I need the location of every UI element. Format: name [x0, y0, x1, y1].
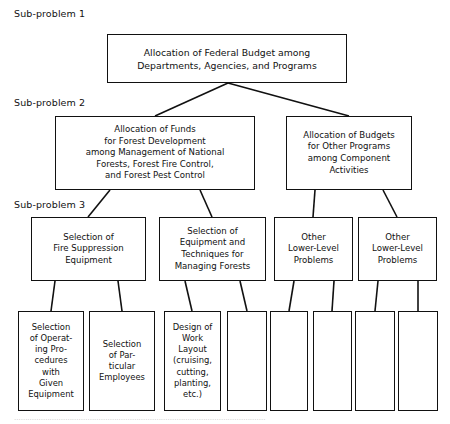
node-particular-employees[interactable]: Selection of Par- ticular Employees [89, 311, 155, 411]
node-label-other-lower-level-problems-2: Other Lower-Level Problems [359, 232, 436, 267]
node-other-programs-budgets[interactable]: Allocation of Budgets for Other Programs… [286, 116, 412, 190]
node-label-work-layout-design: Design of Work Layout (cruising, cutting… [165, 322, 220, 400]
c-equip-to-blank1 [240, 281, 247, 311]
node-work-layout-design[interactable]: Design of Work Layout (cruising, cutting… [164, 311, 221, 411]
c-lower1-to-blank3 [332, 281, 334, 311]
node-federal-budget-allocation[interactable]: Allocation of Federal Budget among Depar… [107, 34, 347, 83]
c-fire-to-emp [118, 281, 122, 311]
c-fire-to-proc [51, 281, 55, 311]
node-fire-suppression-equipment[interactable]: Selection of Fire Suppression Equipment [31, 217, 146, 281]
c-other-to-lower2 [383, 190, 397, 217]
diagram-canvas: Sub-problem 1Sub-problem 2Sub-problem 3 … [0, 0, 450, 424]
node-blank-node-4[interactable] [355, 311, 395, 411]
c-forest-to-equip [200, 190, 212, 217]
node-label-federal-budget-allocation: Allocation of Federal Budget among Depar… [108, 46, 346, 72]
node-label-equipment-techniques-forests: Selection of Equipment and Techniques fo… [160, 226, 265, 272]
node-label-particular-employees: Selection of Par- ticular Employees [90, 339, 154, 384]
node-blank-node-2[interactable] [270, 311, 308, 411]
node-equipment-techniques-forests[interactable]: Selection of Equipment and Techniques fo… [159, 217, 266, 281]
c-forest-to-fire [88, 190, 110, 217]
node-forest-development-funds[interactable]: Allocation of Funds for Forest Developme… [55, 116, 255, 190]
c-other-to-lower1 [313, 190, 315, 217]
node-blank-node-1[interactable] [227, 311, 267, 411]
node-label-other-lower-level-problems-1: Other Lower-Level Problems [275, 232, 352, 267]
node-blank-node-5[interactable] [398, 311, 438, 411]
node-other-lower-level-problems-1[interactable]: Other Lower-Level Problems [274, 217, 353, 281]
c-root-to-other [228, 83, 349, 116]
c-equip-to-layout [185, 281, 192, 311]
node-blank-node-3[interactable] [313, 311, 352, 411]
node-label-operating-procedures-given-equipment: Selection of Operat- ing Pro- cedures wi… [19, 322, 83, 400]
node-other-lower-level-problems-2[interactable]: Other Lower-Level Problems [358, 217, 437, 281]
c-lower2-to-blank4 [375, 281, 378, 311]
c-root-to-forest [155, 83, 228, 116]
node-label-fire-suppression-equipment: Selection of Fire Suppression Equipment [32, 232, 145, 267]
c-lower1-to-blank2 [289, 281, 294, 311]
node-operating-procedures-given-equipment[interactable]: Selection of Operat- ing Pro- cedures wi… [18, 311, 84, 411]
node-label-forest-development-funds: Allocation of Funds for Forest Developme… [56, 124, 254, 182]
node-label-other-programs-budgets: Allocation of Budgets for Other Programs… [287, 130, 411, 176]
